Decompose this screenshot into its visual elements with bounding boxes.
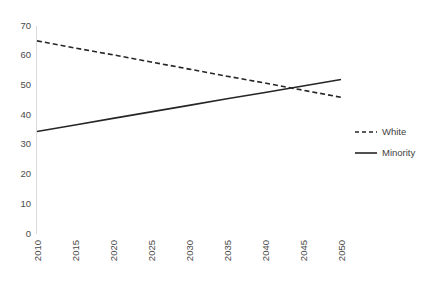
y-tick-label-60: 60 [20, 49, 31, 60]
legend-label-minority: Minority [382, 147, 416, 158]
x-tick-label-2020: 2020 [108, 240, 119, 261]
y-tick-label-70: 70 [20, 20, 31, 31]
y-tick-label-0: 0 [26, 228, 31, 239]
x-tick-label-2025: 2025 [146, 240, 157, 261]
y-tick-label-50: 50 [20, 79, 31, 90]
line-chart: 0 10 20 30 40 50 60 70 2010 2015 2020 20… [0, 0, 435, 290]
legend-label-white: White [382, 126, 406, 137]
y-tick-label-10: 10 [20, 198, 31, 209]
x-tick-label-2030: 2030 [184, 240, 195, 261]
x-tick-label-2045: 2045 [298, 240, 309, 261]
x-tick-label-2015: 2015 [70, 240, 81, 261]
x-tick-label-2040: 2040 [260, 240, 271, 261]
x-tick-label-2050: 2050 [336, 240, 347, 261]
y-tick-label-30: 30 [20, 138, 31, 149]
chart-canvas: 0 10 20 30 40 50 60 70 2010 2015 2020 20… [0, 0, 435, 290]
x-tick-label-2035: 2035 [222, 240, 233, 261]
chart-background [0, 0, 435, 290]
y-tick-label-20: 20 [20, 168, 31, 179]
y-tick-label-40: 40 [20, 109, 31, 120]
x-tick-label-2010: 2010 [32, 240, 43, 261]
